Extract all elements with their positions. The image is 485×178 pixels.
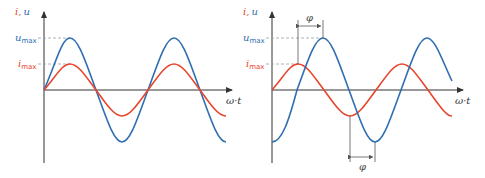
right-x-axis-label: ω·t (455, 95, 471, 106)
right-diagram: φ φ i,u umax imax ω·t (243, 6, 471, 172)
right-umax-label: umax (243, 32, 265, 45)
ac-phase-diagrams: i,u umax imax ω·t φ φ i,u umax imax ω·t (0, 0, 485, 178)
right-imax-label: imax (246, 58, 264, 71)
right-phase-top-label: φ (306, 12, 313, 23)
left-umax-label: umax (15, 32, 37, 45)
left-x-axis-label: ω·t (226, 95, 242, 106)
left-diagram: i,u umax imax ω·t (15, 6, 242, 163)
right-axis-label: i,u (243, 6, 258, 17)
right-phase-bottom-label: φ (359, 161, 366, 172)
left-imax-label: imax (18, 58, 36, 71)
left-axis-label: i,u (15, 6, 30, 17)
